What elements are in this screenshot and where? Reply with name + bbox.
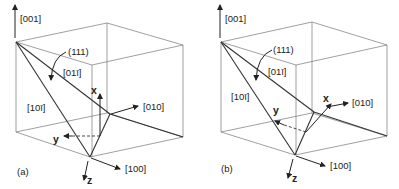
axis-100-label-a: [100]	[125, 163, 146, 174]
sample-x-label-a: x	[91, 84, 97, 96]
axis-001-label-b: [001]	[225, 13, 246, 24]
panel-label-b: (b)	[221, 163, 233, 174]
edge-10-1-label-b: [10ī]	[231, 91, 250, 102]
edge-01-1-label-b: [01ī]	[268, 66, 287, 77]
axis-010-label-b: [010]	[352, 97, 373, 108]
sample-y-label-b: y	[273, 104, 279, 116]
axis-001-label-a: [001]	[20, 13, 41, 24]
sample-y-arrow-b	[275, 121, 284, 125]
panel-b: [001] [010] [100] (111) [01ī] [10ī] x y …	[220, 5, 387, 184]
panel-a: [001] [010] [100] (111) [01ī] [10ī] x y …	[15, 5, 183, 186]
axis-100-arrow-b	[296, 156, 325, 166]
axis-010-label-a: [010]	[143, 101, 164, 112]
edge-01-1-label-a: [01ī]	[63, 67, 82, 78]
sample-y-label-a: y	[53, 133, 59, 145]
sample-x-label-b: x	[323, 92, 329, 104]
axis-010-arrow-a	[111, 106, 138, 114]
plane-111-label-a: (111)	[68, 46, 89, 57]
axis-100-arrow-a	[91, 158, 120, 169]
sample-y-dashed-line-b	[284, 125, 306, 132]
edge-10-1-label-a: [10ī]	[27, 102, 46, 113]
plane-111-label-b: (111)	[273, 44, 294, 55]
sample-z-label-b: z	[292, 172, 297, 184]
axis-100-label-b: [100]	[330, 160, 351, 171]
panel-label-a: (a)	[17, 166, 29, 177]
crystal-orientation-figure: [001] [010] [100] (111) [01ī] [10ī] x y …	[0, 0, 399, 189]
sample-z-label-a: z	[87, 174, 92, 186]
